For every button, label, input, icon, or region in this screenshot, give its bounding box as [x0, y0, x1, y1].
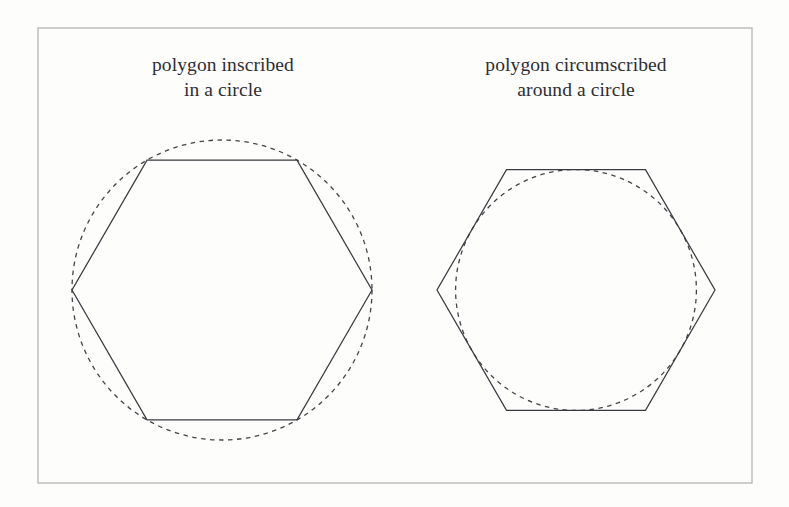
diagram-canvas — [0, 0, 789, 507]
figure-container: polygon inscribed in a circle polygon ci… — [0, 0, 789, 507]
canvas-background — [0, 0, 789, 507]
